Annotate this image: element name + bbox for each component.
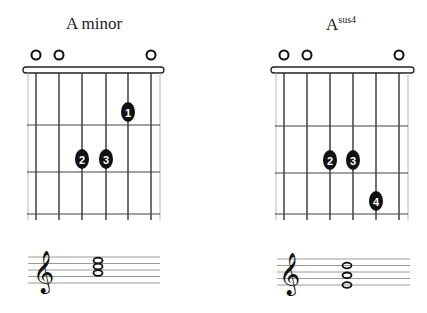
treble-clef-icon: 𝄞 bbox=[33, 251, 54, 294]
nut bbox=[271, 67, 414, 73]
finger-dot: 2 bbox=[323, 150, 337, 170]
nut bbox=[23, 67, 164, 73]
svg-text:1: 1 bbox=[125, 107, 131, 119]
staff-asus4: 𝄞 bbox=[277, 253, 410, 296]
fretboard-a-minor: 1 2 3 bbox=[23, 51, 164, 221]
fretboard-asus4: 2 3 4 bbox=[271, 51, 414, 221]
chord-notes bbox=[343, 263, 352, 288]
svg-text:3: 3 bbox=[103, 154, 109, 166]
open-string-markers bbox=[280, 51, 404, 60]
chord-diagrams: 1 2 3 2 3 4 𝄞 bbox=[0, 0, 427, 313]
finger-dot: 3 bbox=[99, 149, 113, 169]
strings bbox=[36, 73, 151, 220]
finger-dot: 2 bbox=[75, 149, 89, 169]
open-string-icon bbox=[395, 51, 404, 60]
open-string-markers bbox=[32, 51, 156, 60]
svg-text:2: 2 bbox=[327, 155, 333, 167]
treble-clef-icon: 𝄞 bbox=[279, 253, 300, 296]
open-string-icon bbox=[303, 51, 312, 60]
finger-dot: 4 bbox=[369, 191, 383, 211]
svg-text:3: 3 bbox=[350, 155, 356, 167]
finger-dot: 3 bbox=[346, 150, 360, 170]
svg-text:4: 4 bbox=[373, 196, 380, 208]
open-string-icon bbox=[280, 51, 289, 60]
chord-notes bbox=[94, 258, 103, 276]
frets bbox=[27, 125, 160, 214]
finger-dot: 1 bbox=[121, 102, 135, 122]
open-string-icon bbox=[32, 51, 41, 60]
staff-a-minor: 𝄞 bbox=[28, 251, 160, 294]
open-string-icon bbox=[55, 51, 64, 60]
open-string-icon bbox=[147, 51, 156, 60]
svg-text:2: 2 bbox=[79, 154, 85, 166]
frets bbox=[275, 126, 408, 214]
